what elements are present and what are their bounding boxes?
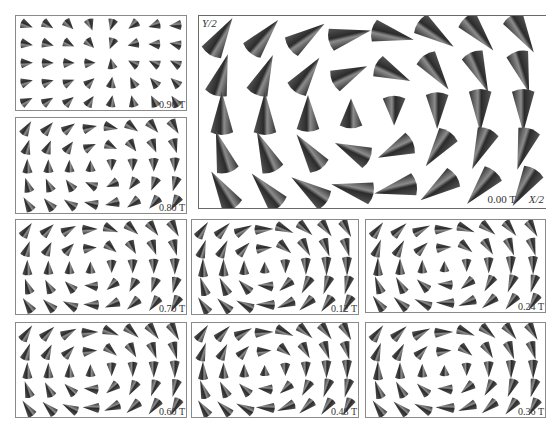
- cone-field: [366, 323, 545, 417]
- magnetization-cone-icon: [480, 274, 498, 294]
- magnetization-cone-icon: [287, 128, 330, 175]
- magnetization-cone-icon: [342, 257, 352, 276]
- magnetization-cone-icon: [411, 324, 433, 341]
- magnetization-cone-icon: [417, 260, 427, 274]
- magnetization-cone-icon: [339, 237, 354, 258]
- magnetization-cone-icon: [503, 340, 519, 361]
- magnetization-cone-icon: [123, 398, 143, 417]
- magnetization-cone-icon: [18, 323, 37, 343]
- magnetization-cone-icon: [462, 259, 472, 272]
- magnetization-cone-icon: [213, 220, 234, 240]
- magnetization-cone-icon: [60, 240, 77, 257]
- magnetization-cone-icon: [326, 20, 373, 52]
- magnetization-cone-icon: [22, 159, 32, 174]
- magnetization-cone-icon: [128, 259, 138, 273]
- magnetization-cone-icon: [316, 323, 335, 343]
- magnetization-cone-icon: [61, 139, 77, 156]
- magnetization-cone-icon: [245, 51, 283, 100]
- panel-p080: 0.80 T: [15, 117, 187, 214]
- magnetization-cone-icon: [214, 295, 235, 314]
- magnetization-cone-icon: [338, 323, 356, 343]
- magnetization-cone-icon: [318, 340, 334, 361]
- magnetization-cone-icon: [370, 379, 386, 400]
- cone-field: [16, 118, 186, 213]
- magnetization-cone-icon: [462, 125, 500, 174]
- magnetization-cone-icon: [462, 363, 472, 376]
- magnetization-cone-icon: [215, 238, 232, 260]
- magnetization-cone-icon: [63, 58, 75, 68]
- magnetization-cone-icon: [61, 195, 79, 212]
- magnetization-cone-icon: [123, 119, 141, 136]
- magnetization-cone-icon: [195, 379, 211, 400]
- magnetization-cone-icon: [107, 362, 117, 376]
- magnetization-cone-icon: [106, 57, 118, 70]
- magnetization-cone-icon: [321, 360, 331, 378]
- field-label: 0.00 T: [487, 194, 516, 205]
- magnetization-cone-icon: [125, 17, 141, 32]
- magnetization-cone-icon: [411, 221, 432, 238]
- magnetization-cone-icon: [383, 96, 406, 126]
- magnetization-cone-icon: [168, 276, 182, 295]
- magnetization-cone-icon: [215, 379, 232, 399]
- cone-field: [192, 220, 358, 314]
- magnetization-cone-icon: [413, 380, 432, 398]
- magnetization-cone-icon: [41, 138, 56, 155]
- cone-field: [199, 16, 546, 208]
- cone-field: [16, 323, 186, 417]
- magnetization-cone-icon: [61, 297, 80, 313]
- magnetization-cone-icon: [219, 259, 229, 277]
- cone-field: [192, 323, 358, 417]
- magnetization-cone-icon: [83, 243, 98, 254]
- magnetization-cone-icon: [19, 93, 35, 108]
- panel-p060: 0.60 T: [15, 322, 187, 418]
- magnetization-cone-icon: [340, 99, 363, 129]
- magnetization-cone-icon: [211, 92, 234, 135]
- magnetization-cone-icon: [83, 299, 99, 310]
- magnetization-cone-icon: [170, 258, 180, 274]
- magnetization-cone-icon: [82, 346, 98, 357]
- field-label: 0.70 T: [159, 303, 185, 314]
- magnetization-cone-icon: [82, 402, 99, 413]
- magnetization-cone-icon: [84, 58, 96, 69]
- magnetization-cone-icon: [484, 257, 494, 273]
- magnetization-cone-icon: [526, 237, 541, 258]
- magnetization-cone-icon: [434, 327, 454, 338]
- magnetization-cone-icon: [103, 121, 120, 134]
- magnetization-cone-icon: [125, 276, 141, 294]
- magnetization-cone-icon: [280, 259, 290, 273]
- magnetization-cone-icon: [369, 293, 388, 312]
- magnetization-cone-icon: [146, 341, 161, 360]
- magnetization-cone-icon: [456, 221, 477, 237]
- magnetization-cone-icon: [106, 76, 118, 89]
- magnetization-cone-icon: [168, 378, 182, 398]
- magnetization-cone-icon: [480, 340, 498, 360]
- magnetization-cone-icon: [127, 94, 139, 108]
- magnetization-cone-icon: [296, 397, 317, 417]
- magnetization-cone-icon: [503, 273, 519, 294]
- magnetization-cone-icon: [166, 118, 183, 136]
- magnetization-cone-icon: [389, 323, 410, 343]
- magnetization-cone-icon: [455, 324, 476, 340]
- magnetization-cone-icon: [146, 276, 161, 294]
- magnetization-cone-icon: [370, 341, 386, 362]
- magnetization-cone-icon: [316, 220, 335, 240]
- field-label: 0.12 T: [331, 303, 357, 314]
- magnetization-cone-icon: [301, 362, 311, 378]
- magnetization-cone-icon: [479, 397, 500, 417]
- magnetization-cone-icon: [147, 19, 162, 32]
- magnetization-cone-icon: [193, 220, 212, 241]
- magnetization-cone-icon: [19, 295, 37, 314]
- magnetization-cone-icon: [275, 399, 296, 416]
- cone-field: [16, 16, 186, 110]
- magnetization-cone-icon: [340, 275, 355, 296]
- magnetization-cone-icon: [469, 89, 492, 132]
- magnetization-cone-icon: [102, 399, 122, 415]
- magnetization-cone-icon: [524, 220, 542, 239]
- magnetization-cone-icon: [43, 159, 53, 173]
- magnetization-cone-icon: [166, 220, 183, 239]
- magnetization-cone-icon: [297, 341, 314, 361]
- magnetization-cone-icon: [148, 39, 160, 50]
- magnetization-cone-icon: [204, 51, 238, 99]
- magnetization-cone-icon: [413, 342, 432, 360]
- magnetization-cone-icon: [194, 397, 213, 417]
